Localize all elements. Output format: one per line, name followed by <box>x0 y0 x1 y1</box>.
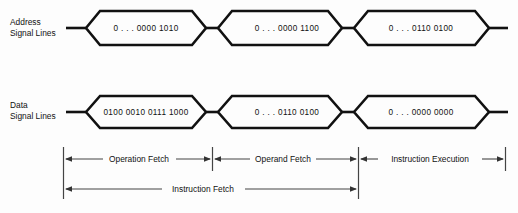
span-instruction-execution: Instruction Execution <box>360 154 504 164</box>
instruction-execution-arrowhead-left <box>360 156 367 162</box>
operation-fetch-arrowhead-right <box>204 156 211 162</box>
data-row: Data Signal Lines 0100 0010 0111 1000 0 … <box>10 96 508 128</box>
span-row-instruction-fetch: Instruction Fetch <box>65 184 357 194</box>
instruction-fetch-arrowhead-right <box>350 186 357 192</box>
span-operand-fetch: Operand Fetch <box>214 154 357 164</box>
operation-fetch-arrowhead-left <box>65 156 72 162</box>
timing-diagram-canvas: Address Signal Lines 0 . . . 0000 1010 0… <box>0 0 518 213</box>
span-row-phases: Operation Fetch Operand Fetch Instructio… <box>65 154 504 164</box>
data-row-label-line1: Data <box>10 100 28 110</box>
operation-fetch-label: Operation Fetch <box>109 154 169 164</box>
instruction-execution-label: Instruction Execution <box>391 154 469 164</box>
address-segment-3-value: 0 . . . 0110 0100 <box>389 24 454 33</box>
address-row-label-line2: Signal Lines <box>10 28 56 38</box>
data-segment-3-value: 0 . . . 0000 0000 <box>388 108 453 117</box>
operand-fetch-arrowhead-right <box>350 156 357 162</box>
span-operation-fetch: Operation Fetch <box>65 154 211 164</box>
operand-fetch-arrowhead-left <box>214 156 221 162</box>
data-row-label-line2: Signal Lines <box>10 111 56 121</box>
address-row-label-line1: Address <box>10 17 41 27</box>
address-segment-1-value: 0 . . . 0000 1010 <box>113 24 178 33</box>
operand-fetch-label: Operand Fetch <box>255 154 311 164</box>
data-segment-2-value: 0 . . . 0110 0100 <box>255 108 320 117</box>
data-segment-1-value: 0100 0010 0111 1000 <box>103 108 188 117</box>
instruction-fetch-arrowhead-left <box>65 186 72 192</box>
address-segment-2-value: 0 . . . 0000 1100 <box>255 24 320 33</box>
instruction-fetch-label: Instruction Fetch <box>172 184 234 194</box>
timing-diagram: Address Signal Lines 0 . . . 0000 1010 0… <box>0 0 518 213</box>
instruction-execution-arrowhead-right <box>497 156 504 162</box>
address-row: Address Signal Lines 0 . . . 0000 1010 0… <box>10 11 508 45</box>
